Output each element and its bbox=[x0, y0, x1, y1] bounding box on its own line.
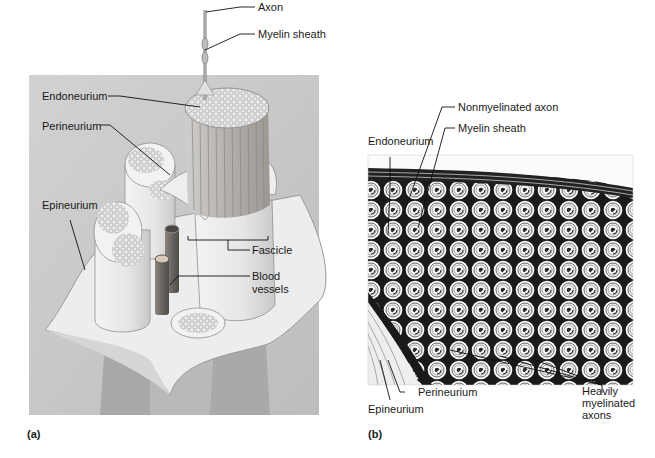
label-blood-vessels-2: vessels bbox=[252, 283, 289, 295]
panel-a-illustration: Axon Myelin sheath Endoneurium Perineuri… bbox=[0, 0, 360, 458]
label-fascicle: Fascicle bbox=[252, 244, 292, 256]
label-endoneurium-b: Endoneurium bbox=[368, 135, 433, 147]
panel-a-label: (a) bbox=[27, 428, 40, 440]
label-perineurium-b: Perineurium bbox=[418, 386, 477, 398]
label-endoneurium-a: Endoneurium bbox=[42, 90, 107, 102]
label-perineurium-a: Perineurium bbox=[42, 120, 101, 132]
label-heavily-myelinated-2: myelinated bbox=[582, 397, 635, 409]
nerve-structure-drawing bbox=[0, 0, 360, 458]
panel-b-label: (b) bbox=[368, 428, 382, 440]
panel-b-micrograph: Nonmyelinated axon Myelin sheath Endoneu… bbox=[360, 0, 655, 458]
label-axon: Axon bbox=[258, 1, 283, 13]
label-myelin-sheath-b: Myelin sheath bbox=[458, 122, 526, 134]
blood-vessel-front bbox=[155, 258, 169, 315]
label-blood-vessels-1: Blood bbox=[252, 270, 280, 282]
label-heavily-myelinated-3: axons bbox=[582, 409, 611, 421]
label-nonmyelinated-axon: Nonmyelinated axon bbox=[458, 101, 558, 113]
label-heavily-myelinated-1: Heavily bbox=[582, 385, 618, 397]
label-epineurium-b: Epineurium bbox=[368, 403, 424, 415]
label-epineurium-a: Epineurium bbox=[42, 199, 98, 211]
label-myelin-sheath-a: Myelin sheath bbox=[258, 28, 326, 40]
